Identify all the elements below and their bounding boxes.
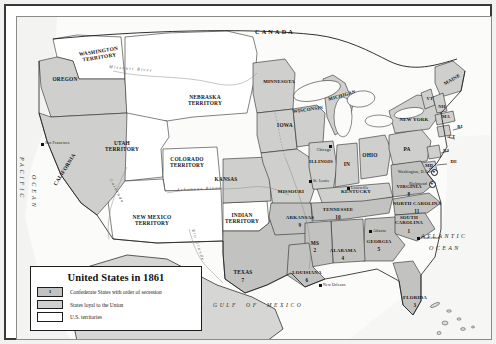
legend-label-union: States loyal to the Union: [70, 302, 123, 308]
map-legend: United States in 1861 1 Confederate Stat…: [30, 266, 202, 331]
capital-marker-richmond: [429, 181, 436, 188]
legend-label-territory: U.S. territories: [70, 314, 102, 320]
city-marker-charleston: [417, 237, 420, 240]
city-marker-st-louis: [309, 180, 312, 183]
map-canvas: .union{fill:#cfcfcd;stroke:#1b1b1b;strok…: [16, 16, 492, 340]
legend-row-confederate: 1 Confederate States with order of seces…: [37, 287, 195, 297]
legend-swatch-sample-number: 1: [38, 289, 62, 294]
city-marker-san-francisco: [41, 143, 44, 146]
map-figure: .union{fill:#cfcfcd;stroke:#1b1b1b;strok…: [0, 0, 496, 344]
city-marker-new-orleans: [319, 284, 322, 287]
legend-swatch-confederate: 1: [37, 287, 63, 297]
legend-swatch-territory: [37, 312, 63, 322]
legend-row-territory: U.S. territories: [37, 312, 195, 322]
legend-swatch-union: [37, 300, 63, 310]
capital-marker-washington-dc: [431, 169, 438, 176]
map-outer-frame: .union{fill:#cfcfcd;stroke:#1b1b1b;strok…: [4, 4, 492, 340]
city-marker-atlanta: [369, 230, 372, 233]
city-marker-louisville: [347, 187, 350, 190]
legend-row-union: States loyal to the Union: [37, 300, 195, 310]
legend-label-confederate: Confederate States with order of secessi…: [70, 289, 162, 295]
legend-title: United States in 1861: [37, 272, 195, 283]
city-marker-chicago: [329, 145, 332, 148]
